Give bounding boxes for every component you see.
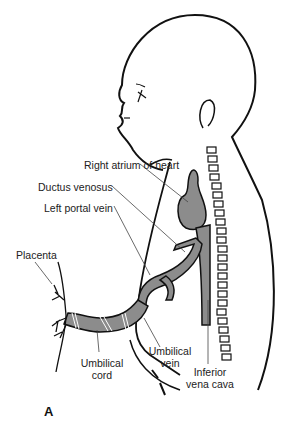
label-right-atrium: Right atrium of heart — [84, 159, 179, 171]
label-umbilical-vein-line1: Umbilical — [148, 345, 192, 357]
diagram-illustration — [0, 0, 281, 427]
ear-icon — [200, 100, 215, 128]
panel-label: A — [44, 404, 53, 419]
label-inferior-vena-cava: Inferior vena cava — [184, 366, 236, 390]
label-umbilical-cord-line2: cord — [80, 369, 124, 381]
right-atrium — [178, 170, 206, 229]
placenta-branches — [52, 262, 66, 372]
label-ductus-venosus: Ductus venosus — [38, 181, 113, 193]
vessels — [64, 170, 210, 332]
label-umbilical-cord: Umbilical cord — [80, 357, 124, 381]
label-ivc-line2: vena cava — [184, 378, 236, 390]
closed-eye-icon — [136, 84, 146, 102]
fetal-circulation-diagram: Right atrium of heart Ductus venosus Lef… — [0, 0, 281, 427]
label-umbilical-cord-line1: Umbilical — [80, 357, 124, 369]
label-placenta: Placenta — [16, 249, 57, 261]
label-left-portal-vein: Left portal vein — [44, 202, 113, 214]
label-ivc-line1: Inferior — [184, 366, 236, 378]
